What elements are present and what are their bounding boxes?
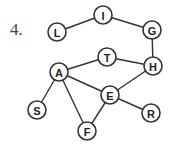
svg-text:H: H	[149, 61, 157, 73]
node-h: H	[144, 57, 162, 75]
node-s: S	[28, 101, 46, 119]
node-e: E	[101, 86, 119, 104]
svg-text:G: G	[148, 25, 157, 37]
svg-text:F: F	[84, 126, 91, 138]
svg-text:I: I	[101, 10, 104, 22]
svg-text:A: A	[55, 67, 63, 79]
svg-text:S: S	[33, 105, 40, 117]
svg-text:E: E	[106, 90, 113, 102]
node-l: L	[48, 23, 66, 41]
svg-text:R: R	[147, 108, 155, 120]
node-f: F	[78, 122, 96, 140]
node-i: I	[94, 6, 112, 24]
node-a: A	[50, 63, 68, 81]
node-r: R	[142, 104, 160, 122]
graph-diagram: LIGTHAESRF	[0, 0, 176, 153]
node-t: T	[98, 48, 116, 66]
node-g: G	[143, 21, 161, 39]
svg-text:L: L	[54, 27, 61, 39]
svg-text:T: T	[104, 52, 111, 64]
